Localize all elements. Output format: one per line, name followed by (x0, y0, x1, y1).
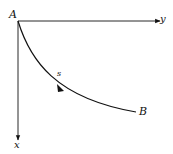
diagram: A y x s B (0, 0, 173, 154)
diagram-svg (0, 0, 173, 154)
point-A-label: A (9, 9, 17, 20)
x-axis-label: x (14, 140, 20, 150)
curve-A-to-B (18, 21, 136, 112)
arc-length-label: s (57, 70, 61, 78)
y-axis-label: y (160, 14, 166, 24)
point-B-label: B (139, 106, 147, 117)
